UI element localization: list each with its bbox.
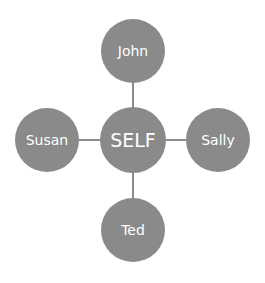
node-label: John [118,44,148,58]
connector-left [79,139,102,141]
node-label: Sally [201,133,235,147]
node-ted: Ted [101,198,165,262]
node-label: Ted [121,223,145,237]
node-label: Susan [26,133,69,147]
connector-bottom [132,172,134,198]
node-sally: Sally [186,108,250,172]
node-susan: Susan [15,108,79,172]
node-self: SELF [100,107,166,173]
node-label: SELF [110,131,156,150]
connector-right [165,139,187,141]
node-john: John [101,19,165,83]
connector-top [132,83,134,109]
